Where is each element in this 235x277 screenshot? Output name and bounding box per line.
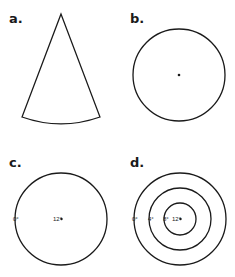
panel-a-label: a. bbox=[9, 11, 23, 26]
panel-c-label: c. bbox=[9, 155, 22, 170]
label-0-degrees: 0° bbox=[13, 216, 19, 222]
panel-b: b. bbox=[130, 11, 225, 121]
panel-d: d. 0° 4° 8° 12° bbox=[130, 155, 226, 265]
panel-a: a. bbox=[9, 11, 100, 124]
figure-canvas: a. b. c. 0° 12° d. 0° 4° 8° 12° bbox=[0, 0, 235, 277]
label-0-degrees: 0° bbox=[132, 216, 138, 222]
panel-b-label: b. bbox=[130, 11, 144, 26]
panel-c: c. 0° 12° bbox=[9, 155, 107, 265]
center-dot bbox=[178, 74, 181, 77]
label-8-degrees: 8° bbox=[163, 216, 169, 222]
label-4-degrees: 4° bbox=[148, 216, 154, 222]
center-dot bbox=[179, 218, 181, 220]
sector-shape bbox=[22, 14, 100, 124]
panel-d-label: d. bbox=[130, 155, 144, 170]
center-dot bbox=[60, 218, 62, 220]
